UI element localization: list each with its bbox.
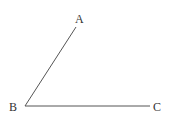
point-label-b: B <box>9 100 17 114</box>
angle-diagram: A B C <box>0 0 180 122</box>
segment-ba <box>25 27 76 106</box>
point-label-a: A <box>75 12 84 26</box>
point-label-c: C <box>153 100 161 114</box>
